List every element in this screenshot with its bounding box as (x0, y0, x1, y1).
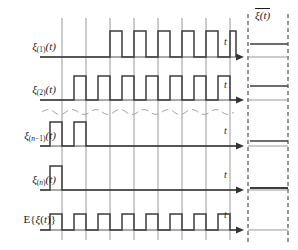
row-2-label-text: ξ(2)(t) (32, 83, 56, 95)
row-2-signal (40, 76, 236, 100)
row-n-1-axis-label: t (224, 125, 227, 136)
row-1-label-text: ξ(1)(t) (32, 40, 56, 52)
row-n-signal (40, 166, 236, 190)
row-mean-axis-label: t (224, 209, 227, 220)
row-1-label: ξ(1)(t) (10, 40, 56, 54)
row-n-waveform-group (40, 166, 244, 193)
row-n-label: ξ(n)(t) (6, 173, 56, 187)
row-2-label: ξ(2)(t) (10, 83, 56, 97)
time-average-label: ξ(t) (255, 8, 270, 21)
row-n-1-label-text: ξ(n−1)(t) (24, 129, 56, 141)
row-mean-label: E{ξ(t)} (4, 213, 56, 225)
row-2-waveform-group (40, 76, 244, 103)
row-1-axis-arrowhead (236, 54, 244, 61)
time-average-label-text: ξ(t) (255, 8, 270, 21)
row-1-waveform-group (40, 31, 244, 60)
time-average-panel (248, 14, 288, 242)
row-n-label-text: ξ(n)(t) (32, 173, 56, 185)
row-1-signal (40, 31, 236, 57)
ellipsis-wave (42, 110, 234, 115)
random-process-ensemble-figure: ξ(1)(t) ξ(2)(t) ξ(n−1)(t) ξ(n)(t) E{ξ(t)… (0, 0, 298, 250)
row-n-axis-arrowhead (236, 187, 244, 194)
row-mean-axis-arrowhead (236, 227, 244, 234)
row-n-1-axis-arrowhead (236, 143, 244, 150)
row-ellipsis-wavy-divider (42, 110, 234, 115)
row-mean-signal (40, 214, 236, 230)
row-mean-label-text: E{ξ(t)} (24, 213, 56, 225)
row-2-axis-arrowhead (236, 97, 244, 104)
row-n-1-waveform-group (40, 122, 244, 149)
row-n-axis-label: t (224, 169, 227, 180)
row-n-1-label: ξ(n−1)(t) (2, 129, 56, 143)
row-n-1-signal (40, 122, 236, 146)
row-1-axis-label: t (224, 36, 227, 47)
row-mean-waveform-group (40, 214, 244, 233)
row-2-axis-label: t (224, 79, 227, 90)
